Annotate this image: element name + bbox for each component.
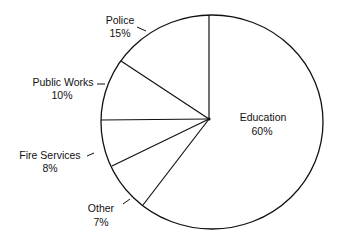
slice-label-other: Other 7% xyxy=(88,202,115,228)
slice-percent: 10% xyxy=(51,89,72,101)
slice-label-fire-services: Fire Services 8% xyxy=(19,149,80,174)
slice-name: Other xyxy=(88,202,115,214)
slice-name: Police xyxy=(106,14,135,26)
slice-percent: 8% xyxy=(42,162,57,174)
leader-other xyxy=(123,199,130,204)
slice-percent: 7% xyxy=(93,216,108,228)
slice-name: Education xyxy=(240,111,287,123)
slice-name: Public Works xyxy=(32,76,93,88)
leader-fire-services xyxy=(87,153,94,156)
slice-percent: 60% xyxy=(251,125,272,137)
leader-police xyxy=(137,27,146,31)
slice-name: Fire Services xyxy=(19,149,80,161)
slice-percent: 15% xyxy=(109,27,130,39)
pie-chart: Police 15% Public Works 10% Fire Service… xyxy=(0,0,342,242)
pie-center xyxy=(207,117,210,120)
pie-outline xyxy=(101,15,323,229)
slice-label-police: Police 15% xyxy=(106,14,135,39)
slice-label-public-works: Public Works 10% xyxy=(32,76,93,101)
